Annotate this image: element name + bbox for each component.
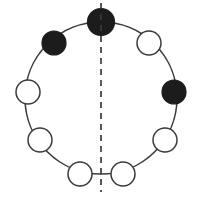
bead-left-upper-open[interactable] xyxy=(16,80,40,104)
bead-right-upper-filled[interactable] xyxy=(162,80,186,104)
bead-top-filled[interactable] xyxy=(88,9,115,36)
bead-right-lower-open[interactable] xyxy=(153,128,177,152)
bead-upper-left-filled[interactable] xyxy=(42,31,66,55)
bead-bottom-left-open[interactable] xyxy=(68,162,92,186)
necklace-figure: Necklace diagram with reflection axis xyxy=(0,0,199,200)
bead-bottom-right-open[interactable] xyxy=(111,162,135,186)
bead-upper-right-open[interactable] xyxy=(137,31,161,55)
necklace-diagram-canvas xyxy=(0,0,199,200)
bead-left-lower-open[interactable] xyxy=(28,128,52,152)
